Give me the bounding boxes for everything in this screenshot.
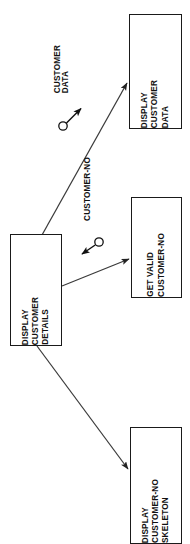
- structure-chart-diagram: DISPLAY CUSTOMER DETAILS DISPLAY CUSTOME…: [0, 0, 190, 544]
- data-couple-label-customer-no: CUSTOMER-NO: [84, 157, 92, 221]
- node-label-line: CUSTOMER-NO: [152, 474, 160, 543]
- node-label-line: DISPLAY: [22, 304, 30, 345]
- node-label-line: SKELETON: [162, 492, 170, 543]
- node-display-customer-no-skeleton[interactable]: DISPLAY CUSTOMER-NO SKELETON: [130, 427, 182, 544]
- node-label-line: DISPLAY: [141, 87, 149, 128]
- node-label-line: CUSTOMER: [32, 292, 40, 345]
- data-couple-customer-data-icon: [59, 109, 81, 131]
- node-label-line: CUSTOMER: [151, 75, 159, 128]
- data-couple-label-line: CUSTOMER-NO: [84, 157, 92, 221]
- node-get-valid-customer-no[interactable]: GET VALID CUSTOMER-NO: [131, 197, 182, 298]
- edge-to-get-valid-customer-no: [62, 259, 129, 286]
- data-couple-label-customer-data: CUSTOMER DATA: [54, 45, 70, 93]
- data-couple-label-line: DATA: [62, 45, 70, 93]
- node-display-customer-data[interactable]: DISPLAY CUSTOMER DATA: [129, 14, 182, 129]
- node-display-customer-details[interactable]: DISPLAY CUSTOMER DETAILS: [10, 234, 62, 346]
- node-label-line: GET VALID: [147, 247, 155, 297]
- node-label-line: DATA: [162, 101, 170, 128]
- edge-to-display-customer-no-skeleton: [37, 346, 128, 469]
- node-label-line: CUSTOMER-NO: [158, 228, 166, 297]
- data-couple-customer-no-icon: [82, 238, 103, 254]
- node-label-line: DETAILS: [42, 304, 50, 345]
- node-label-line: DISPLAY: [142, 502, 150, 543]
